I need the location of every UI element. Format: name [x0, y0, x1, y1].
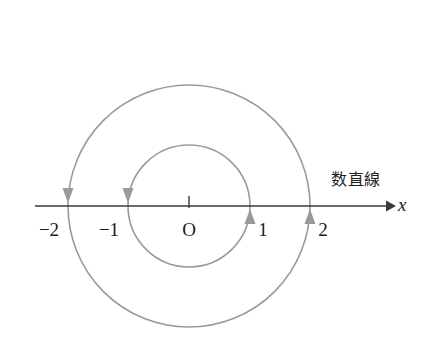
axis-group — [35, 196, 396, 212]
axis-label-x: x — [398, 194, 406, 216]
axis-arrowhead-icon — [386, 201, 396, 212]
number-line-annotation-label: 数直線 — [331, 166, 381, 190]
tick-label-minus-2: −2 — [34, 220, 64, 239]
arrow-outer-left-down-icon — [63, 188, 74, 203]
tick-label-origin: O — [178, 220, 200, 239]
arrow-inner-left-down-icon — [123, 188, 134, 203]
tick-label-1: 1 — [252, 220, 274, 239]
tick-label-2: 2 — [312, 220, 334, 239]
figure-canvas: −2 −1 O 1 2 数直線 x — [0, 0, 427, 358]
tick-label-minus-1: −1 — [94, 220, 124, 239]
